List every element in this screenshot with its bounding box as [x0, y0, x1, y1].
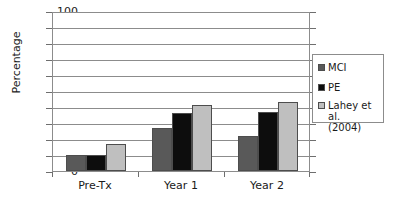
bar: [106, 144, 126, 171]
gridline: [53, 76, 309, 77]
y-tick-mark-right: [310, 156, 316, 157]
bar: [258, 112, 278, 171]
x-tick-mark: [52, 172, 53, 177]
y-tick-mark-right: [310, 140, 316, 141]
bar-chart: Percentage 1009080706050403020100 Pre-Tx…: [0, 0, 394, 206]
bar: [86, 155, 106, 171]
gridline: [53, 44, 309, 45]
legend-swatch-icon: [318, 84, 325, 91]
gridline: [53, 108, 309, 109]
y-tick-mark-right: [310, 28, 316, 29]
legend-label: MCI: [328, 62, 347, 73]
x-tick-label: Year 2: [222, 179, 312, 192]
bar: [238, 136, 258, 171]
y-axis-title: Percentage: [10, 21, 23, 105]
y-tick-mark-right: [310, 12, 316, 13]
legend-item: PE: [318, 82, 340, 93]
x-tick-mark: [138, 172, 139, 177]
legend: MCIPELahey et al. (2004): [312, 54, 384, 123]
legend-swatch-icon: [318, 64, 325, 71]
legend-label: Lahey et al. (2004): [328, 100, 383, 133]
x-tick-mark: [309, 172, 310, 177]
gridline: [53, 92, 309, 93]
x-tick-label: Pre-Tx: [50, 179, 140, 192]
bar: [152, 128, 172, 171]
gridline: [53, 60, 309, 61]
bar: [66, 155, 86, 171]
bar: [278, 102, 298, 171]
gridline: [53, 28, 309, 29]
y-tick-mark-right: [310, 172, 316, 173]
legend-label: PE: [328, 82, 340, 93]
legend-swatch-icon: [318, 102, 325, 109]
bar: [172, 113, 192, 171]
x-tick-label: Year 1: [136, 179, 226, 192]
plot-area: [52, 12, 310, 172]
bar: [192, 105, 212, 171]
y-tick-mark-right: [310, 44, 316, 45]
x-tick-mark: [224, 172, 225, 177]
legend-item: MCI: [318, 62, 347, 73]
y-tick-mark-right: [310, 124, 316, 125]
legend-item: Lahey et al. (2004): [318, 100, 383, 133]
